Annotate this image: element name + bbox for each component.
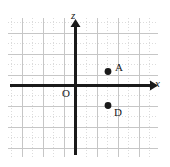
- data-point-a: [105, 68, 112, 75]
- major-gridlines-horizontal: [8, 34, 158, 149]
- x-axis-label: x: [155, 78, 160, 89]
- origin-label: O: [62, 88, 70, 99]
- point-label-a: A: [115, 62, 123, 73]
- z-axis: [71, 19, 81, 155]
- data-point-d: [105, 102, 112, 109]
- coordinate-plane-figure: z x O A D: [0, 0, 170, 167]
- z-axis-label: z: [71, 10, 75, 21]
- coordinate-plane-svg: [0, 0, 170, 167]
- minor-gridlines-horizontal: [8, 23, 158, 138]
- minor-gridlines-vertical: [12, 18, 150, 157]
- point-label-d: D: [114, 107, 122, 118]
- major-gridlines-vertical: [23, 18, 140, 157]
